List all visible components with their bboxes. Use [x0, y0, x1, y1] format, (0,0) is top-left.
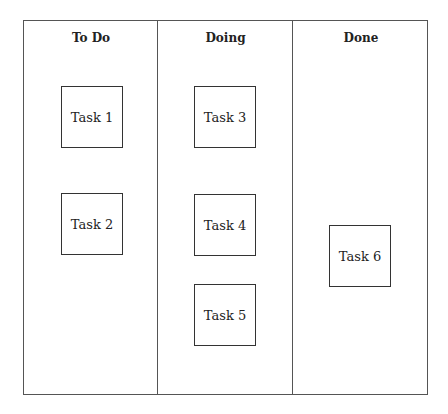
column-title-doing: Doing	[158, 31, 293, 45]
column-divider	[292, 21, 293, 394]
task-card[interactable]: Task 4	[194, 194, 256, 256]
column-divider	[157, 21, 158, 394]
task-label: Task 4	[204, 218, 246, 233]
task-label: Task 1	[71, 110, 113, 125]
task-card[interactable]: Task 6	[329, 225, 391, 287]
task-label: Task 5	[204, 308, 246, 323]
task-card[interactable]: Task 5	[194, 284, 256, 346]
kanban-board: To Do Doing Done Task 1 Task 2 Task 3 Ta…	[23, 20, 428, 395]
task-card[interactable]: Task 3	[194, 86, 256, 148]
task-label: Task 3	[204, 110, 246, 125]
task-card[interactable]: Task 2	[61, 193, 123, 255]
column-title-todo: To Do	[24, 31, 158, 45]
task-card[interactable]: Task 1	[61, 86, 123, 148]
task-label: Task 6	[339, 249, 381, 264]
column-title-done: Done	[293, 31, 429, 45]
task-label: Task 2	[71, 217, 113, 232]
